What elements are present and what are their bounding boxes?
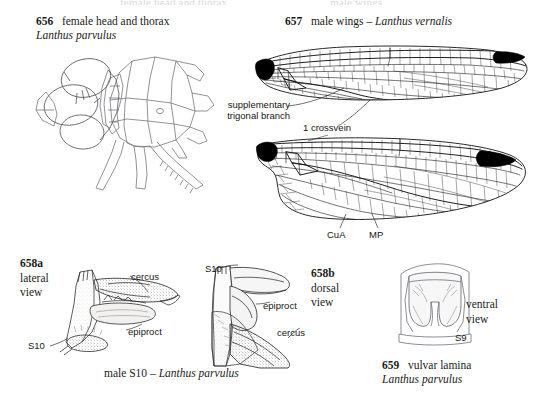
fig658b-number: 658b	[311, 267, 335, 279]
fig658b-drawing	[200, 262, 305, 370]
clipped-fragment-2: male wings	[330, 0, 382, 5]
fig658b-view-line1: dorsal	[311, 281, 339, 296]
illustration-plate: female head and thorax male wings 656 fe…	[0, 0, 541, 399]
fig656-caption: 656 female head and thorax Lanthus parvu…	[36, 14, 169, 42]
fig659-caption: 659 vulvar lamina Lanthus parvulus	[382, 358, 471, 386]
fig658-caption-text: male S10	[104, 367, 147, 379]
fig657-number: 657	[285, 15, 302, 27]
clipped-fragment-1: female head and thorax	[120, 0, 227, 5]
callout-supplementary-line1: supplementary	[180, 99, 290, 110]
fig659-view-line2: view	[466, 312, 498, 327]
legs-group	[96, 140, 203, 193]
fig658a-s10-label: S10	[28, 340, 45, 351]
fig659-view-line1: ventral	[466, 297, 498, 312]
fig659-title: vulvar lamina	[408, 359, 472, 371]
fig658b-s10-label: S10	[205, 263, 222, 274]
fig658-caption-species: Lanthus parvulus	[159, 367, 239, 379]
fig657-hindwing	[244, 133, 534, 225]
callout-supplementary-line2: trigonal branch	[180, 110, 290, 121]
clipped-header-text: female head and thorax male wings	[0, 0, 541, 5]
forewing-venation	[258, 48, 526, 101]
tibial-spines	[160, 161, 193, 193]
fig657-dash: –	[366, 15, 372, 27]
fig657-cua-label: CuA	[327, 229, 345, 240]
fig658a-cercus-label: cercus	[131, 271, 159, 282]
fig658b-view-line2: view	[311, 295, 339, 310]
fig658-caption: male S10 – Lanthus parvulus	[104, 366, 239, 380]
fig657-mp-label: MP	[369, 229, 383, 240]
hindwing-base-dark	[256, 142, 277, 161]
fig659-s9-label: S9	[455, 332, 467, 343]
fig656-title: female head and thorax	[62, 15, 170, 27]
fig658a-epiproct-label: epiproct	[128, 326, 162, 337]
fig658b-cercus-label: cercus	[277, 327, 305, 338]
fig659-view-label: ventral view	[466, 297, 498, 326]
forewing-pterostigma	[493, 52, 525, 64]
fig658-caption-dash: –	[150, 367, 156, 379]
fig659-species: Lanthus parvulus	[382, 372, 471, 386]
fig658b-epiproct-label: epiproct	[263, 300, 297, 311]
fig657-crossvein-callout: 1 crossvein	[303, 122, 351, 133]
male-s10-dorsal-svg	[200, 262, 305, 370]
hindwing-venation	[260, 138, 522, 221]
fig657-species: Lanthus vernalis	[375, 15, 452, 27]
male-s10-lateral-svg	[58, 262, 188, 362]
fig657-caption: 657 male wings – Lanthus vernalis	[285, 14, 452, 28]
fig656-number: 656	[36, 15, 53, 27]
fig658a-drawing	[58, 262, 188, 362]
fig658a-number: 658a	[20, 257, 43, 269]
fig657-supplementary-callout: supplementary trigonal branch	[180, 99, 290, 121]
fig658a-view-line2: view	[20, 285, 49, 300]
fig659-number: 659	[382, 359, 399, 371]
fig658b-label: 658b dorsal view	[311, 266, 339, 310]
fig656-species: Lanthus parvulus	[36, 28, 169, 42]
fig658a-view-line1: lateral	[20, 271, 49, 286]
hindwing-svg	[244, 133, 534, 225]
fig657-title: male wings	[311, 15, 364, 27]
fig658a-label: 658a lateral view	[20, 256, 49, 300]
